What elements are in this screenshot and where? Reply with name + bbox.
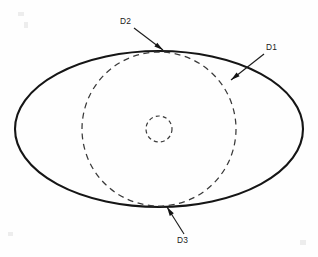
callout-label-d1: D1 bbox=[266, 42, 277, 52]
callout-layer: D2D1D3 bbox=[120, 16, 277, 245]
outer-ellipse bbox=[15, 51, 303, 207]
callout-label-d2: D2 bbox=[120, 16, 131, 26]
diagram-svg: D2D1D3 bbox=[0, 0, 318, 257]
callout-label-d3: D3 bbox=[177, 235, 188, 245]
figure-canvas: D2D1D3 bbox=[0, 0, 318, 257]
callout-d2: D2 bbox=[120, 16, 163, 50]
leader-arrowhead-d3 bbox=[167, 207, 174, 216]
minor-dashed-circle bbox=[146, 116, 172, 142]
callout-d3: D3 bbox=[167, 207, 188, 245]
major-dashed-circle bbox=[82, 52, 236, 206]
callout-d1: D1 bbox=[231, 42, 277, 80]
